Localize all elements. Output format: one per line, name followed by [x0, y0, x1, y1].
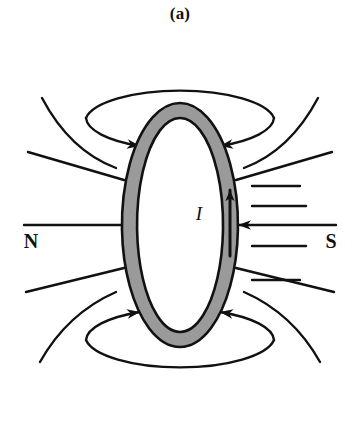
figure-caption: (a) — [0, 4, 360, 24]
magnetic-field-diagram: N S I — [0, 40, 360, 437]
label-north-pole: N — [24, 230, 39, 252]
label-south-pole: S — [325, 230, 336, 252]
figure-root: (a) — [0, 0, 360, 437]
